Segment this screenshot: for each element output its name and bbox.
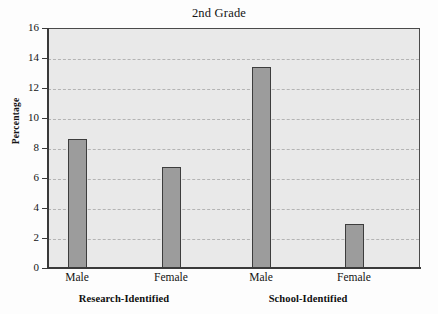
x-tick-label: Male (221, 272, 301, 284)
chart-title: 2nd Grade (0, 6, 438, 21)
y-tick-mark (42, 28, 48, 29)
y-tick-label: 16 (9, 22, 39, 33)
y-tick-label: 4 (9, 202, 39, 213)
y-tick-mark (42, 148, 48, 149)
y-tick-mark (42, 58, 48, 59)
y-tick-mark (42, 238, 48, 239)
bar-chart-figure: 2nd Grade 1614121086420 Percentage MaleF… (0, 0, 438, 314)
x-tick-label: Male (37, 272, 117, 284)
bar (252, 67, 271, 270)
plot-area (48, 28, 420, 268)
y-tick-mark (42, 268, 48, 269)
y-tick-mark (42, 208, 48, 209)
y-tick-mark (42, 88, 48, 89)
y-axis-title: Percentage (11, 83, 21, 159)
bar (68, 139, 87, 270)
group-label: Research-Identified (29, 293, 219, 304)
bar (345, 224, 364, 269)
y-tick-mark (42, 178, 48, 179)
gridline (48, 59, 419, 60)
bar (162, 167, 181, 269)
gridline (48, 119, 419, 120)
gridline (48, 179, 419, 180)
x-tick-label: Female (131, 272, 211, 284)
y-tick-label: 0 (9, 262, 39, 273)
y-tick-label: 2 (9, 232, 39, 243)
gridline (48, 209, 419, 210)
gridline (48, 149, 419, 150)
x-axis-line (47, 267, 421, 269)
group-label: School-Identified (213, 293, 403, 304)
y-tick-label: 6 (9, 172, 39, 183)
gridline (48, 89, 419, 90)
y-tick-label: 14 (9, 52, 39, 63)
x-tick-label: Female (314, 272, 394, 284)
y-tick-mark (42, 118, 48, 119)
